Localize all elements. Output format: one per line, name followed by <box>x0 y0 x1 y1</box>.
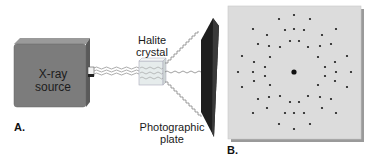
diffraction-spot <box>334 80 336 82</box>
diffraction-spot <box>269 84 271 86</box>
diffraction-spot <box>298 40 300 42</box>
diffraction-spot <box>303 29 305 31</box>
diffraction-spot <box>289 101 291 103</box>
photographic-plate <box>201 18 219 137</box>
incident-beam-icon <box>94 67 139 75</box>
diffraction-spot <box>268 45 270 47</box>
diffraction-spot <box>289 40 291 42</box>
diffraction-spot <box>279 95 281 97</box>
diffraction-spot <box>252 71 254 73</box>
halite-crystal <box>139 58 166 85</box>
diffraction-spot <box>317 84 319 86</box>
panel-a-label: A. <box>14 121 25 133</box>
diffraction-spot <box>346 55 348 57</box>
diffraction-spot <box>321 107 323 109</box>
diffraction-spot <box>257 43 259 45</box>
diffraction-spot <box>257 98 259 100</box>
xray-source-line2: source <box>20 81 86 94</box>
diffraction-spot <box>293 28 295 30</box>
diffraction-spot <box>307 46 309 48</box>
diffraction-spot <box>309 123 311 125</box>
diffraction-spot <box>268 96 270 98</box>
diffraction-spot <box>307 95 309 97</box>
diffraction-spot <box>284 29 286 31</box>
diffraction-spot <box>324 75 326 77</box>
diffraction-spot <box>334 61 336 63</box>
diffraction-spot <box>266 34 268 36</box>
diffraction-spot <box>350 71 352 73</box>
diffraction-spot <box>293 128 295 130</box>
diffraction-spot <box>346 86 348 88</box>
panel-b-label: B. <box>227 144 238 156</box>
diffraction-spot <box>278 123 280 125</box>
plate-label-line1: Photographic <box>136 121 208 133</box>
crystal-label-line1: Halite <box>130 34 174 46</box>
diffraction-spot <box>324 66 326 68</box>
diffraction-spot <box>298 101 300 103</box>
diffraction-spot <box>252 28 254 30</box>
crystal-label-line2: crystal <box>130 46 174 58</box>
diffraction-spot <box>278 18 280 20</box>
diffraction-spot <box>330 98 332 100</box>
diffraction-spot <box>335 28 337 30</box>
diffraction-spot <box>264 75 266 77</box>
aperture-nozzle <box>88 67 94 77</box>
central-beam-spot <box>291 69 296 74</box>
diffraction-spot <box>293 14 295 16</box>
diffraction-spot <box>303 112 305 114</box>
diffraction-spot <box>335 112 337 114</box>
diffraction-spot <box>293 112 295 114</box>
diffraction-spot <box>241 55 243 57</box>
diffraction-spot <box>237 71 239 73</box>
diffraction-spot <box>253 61 255 63</box>
diffraction-spot <box>321 34 323 36</box>
diffraction-spot <box>317 56 319 58</box>
diffraction-spot <box>279 46 281 48</box>
crystal-label: Halite crystal <box>130 34 174 58</box>
diffraction-spot <box>253 80 255 82</box>
diffraction-spot <box>264 66 266 68</box>
diffraction-spot <box>252 112 254 114</box>
diffraction-spot <box>319 45 321 47</box>
diffraction-spot <box>284 112 286 114</box>
diffraction-spot <box>335 71 337 73</box>
diffraction-pattern-plate <box>228 6 364 142</box>
plate-label-line2: plate <box>136 133 208 145</box>
diffraction-spot <box>266 107 268 109</box>
plate-label: Photographic plate <box>136 121 208 145</box>
xray-source-label: X-ray source <box>20 68 86 94</box>
diffraction-spot <box>330 43 332 45</box>
diffraction-spot <box>319 96 321 98</box>
diffraction-spot <box>309 18 311 20</box>
diffraction-spot <box>241 86 243 88</box>
diffraction-spot <box>269 56 271 58</box>
